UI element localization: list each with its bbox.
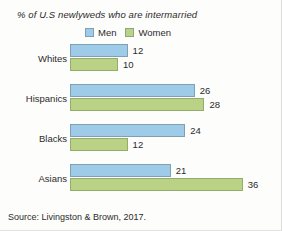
category-label-whites: Whites bbox=[0, 44, 67, 72]
bar-value-blacks-women: 12 bbox=[133, 139, 144, 150]
legend-entry-men: Men bbox=[85, 27, 116, 38]
bar-row-hispanics-men: 26 bbox=[70, 84, 210, 97]
bar-whites-women bbox=[70, 58, 118, 71]
bar-value-hispanics-men: 26 bbox=[200, 85, 211, 96]
legend-swatch-women-icon bbox=[125, 28, 134, 37]
chart-title: % of U.S newlyweds who are intermarried bbox=[17, 9, 197, 20]
chart-legend: Men Women bbox=[85, 27, 171, 38]
bar-row-whites-men: 12 bbox=[70, 44, 143, 57]
bar-row-blacks-men: 24 bbox=[70, 124, 201, 137]
bar-row-hispanics-women: 28 bbox=[70, 98, 220, 111]
plot-area: Whites 12 10 Hispanics 26 28 Blacks bbox=[0, 44, 282, 200]
bar-value-hispanics-women: 28 bbox=[209, 99, 220, 110]
bar-hispanics-women bbox=[70, 98, 204, 111]
bar-whites-men bbox=[70, 44, 128, 57]
category-label-blacks: Blacks bbox=[0, 124, 67, 152]
category-label-hispanics: Hispanics bbox=[0, 84, 67, 112]
bar-group-hispanics: Hispanics 26 28 bbox=[0, 84, 282, 112]
category-label-asians: Asians bbox=[0, 164, 67, 192]
bar-value-asians-men: 21 bbox=[176, 165, 187, 176]
bar-row-blacks-women: 12 bbox=[70, 138, 143, 151]
legend-label-men: Men bbox=[98, 27, 116, 38]
bar-group-whites: Whites 12 10 bbox=[0, 44, 282, 72]
bar-row-asians-men: 21 bbox=[70, 164, 186, 177]
bar-asians-women bbox=[70, 178, 243, 191]
bar-value-blacks-men: 24 bbox=[190, 125, 201, 136]
bar-value-whites-men: 12 bbox=[133, 45, 144, 56]
legend-label-women: Women bbox=[138, 27, 171, 38]
chart-figure: % of U.S newlyweds who are intermarried … bbox=[0, 0, 282, 231]
chart-source-note: Source: Livingston & Brown, 2017. bbox=[8, 212, 146, 222]
legend-entry-women: Women bbox=[125, 27, 171, 38]
bar-row-whites-women: 10 bbox=[70, 58, 134, 71]
bar-asians-men bbox=[70, 164, 171, 177]
bar-blacks-men bbox=[70, 124, 185, 137]
bar-blacks-women bbox=[70, 138, 128, 151]
bar-hispanics-men bbox=[70, 84, 195, 97]
bar-value-whites-women: 10 bbox=[123, 59, 134, 70]
legend-swatch-men-icon bbox=[85, 28, 94, 37]
bar-value-asians-women: 36 bbox=[248, 179, 259, 190]
bar-row-asians-women: 36 bbox=[70, 178, 258, 191]
bar-group-blacks: Blacks 24 12 bbox=[0, 124, 282, 152]
bar-group-asians: Asians 21 36 bbox=[0, 164, 282, 192]
